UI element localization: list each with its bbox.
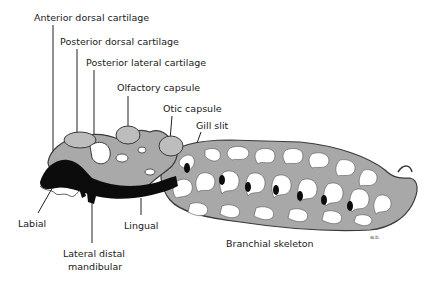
- label-posterior-lateral-cartilage: Posterior lateral cartilage: [86, 57, 206, 68]
- label-olfactory-capsule: Olfactory capsule: [117, 82, 200, 93]
- label-lateral-distal-mandibular-1: Lateral distal: [63, 248, 125, 259]
- label-branchial-skeleton: Branchial skeleton: [226, 238, 314, 249]
- artist-signature: w.b.: [370, 234, 380, 240]
- label-gill-slit: Gill slit: [196, 120, 228, 131]
- branchial-basket: [161, 140, 417, 231]
- label-posterior-dorsal-cartilage: Posterior dorsal cartilage: [60, 36, 179, 47]
- diagram-canvas: Anterior dorsal cartilage Posterior dors…: [0, 0, 430, 285]
- olfactory-capsule-shape: [116, 126, 140, 144]
- label-labial: Labial: [18, 218, 46, 229]
- label-otic-capsule: Otic capsule: [163, 103, 222, 114]
- otic-capsule-shape: [159, 136, 183, 156]
- label-lateral-distal-mandibular-2: mandibular: [68, 261, 122, 272]
- label-anterior-dorsal-cartilage: Anterior dorsal cartilage: [34, 12, 149, 23]
- label-lingual: Lingual: [124, 220, 158, 231]
